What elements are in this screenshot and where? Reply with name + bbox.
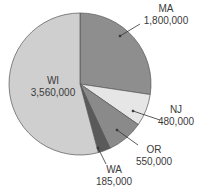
label-nj-value: 480,000 [152, 116, 199, 128]
label-wa-value: 185,000 [92, 176, 136, 188]
label-wi: WI 3,560,000 [23, 75, 83, 99]
leader-dot-nj [132, 110, 134, 112]
label-or: OR 550,000 [130, 144, 178, 168]
label-or-name: OR [130, 144, 178, 156]
leader-dot-wa [97, 147, 99, 149]
label-or-value: 550,000 [130, 156, 178, 168]
leader-dot-or [116, 129, 118, 131]
label-wi-name: WI [23, 75, 83, 87]
label-wa-name: WA [92, 164, 136, 176]
label-wi-value: 3,560,000 [23, 87, 83, 99]
leader-dot-ma [119, 35, 121, 37]
label-ma-name: MA [138, 3, 194, 15]
label-ma-value: 1,800,000 [138, 15, 194, 27]
label-ma: MA 1,800,000 [138, 3, 194, 27]
label-wa: WA 185,000 [92, 164, 136, 188]
label-nj-name: NJ [152, 104, 199, 116]
label-nj: NJ 480,000 [152, 104, 199, 128]
